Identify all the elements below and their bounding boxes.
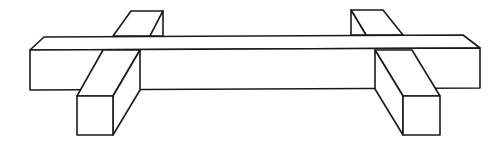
right-cross-block-back bbox=[351, 10, 403, 35]
beam-diagram bbox=[0, 0, 503, 145]
left-cross-block-back bbox=[113, 11, 163, 36]
